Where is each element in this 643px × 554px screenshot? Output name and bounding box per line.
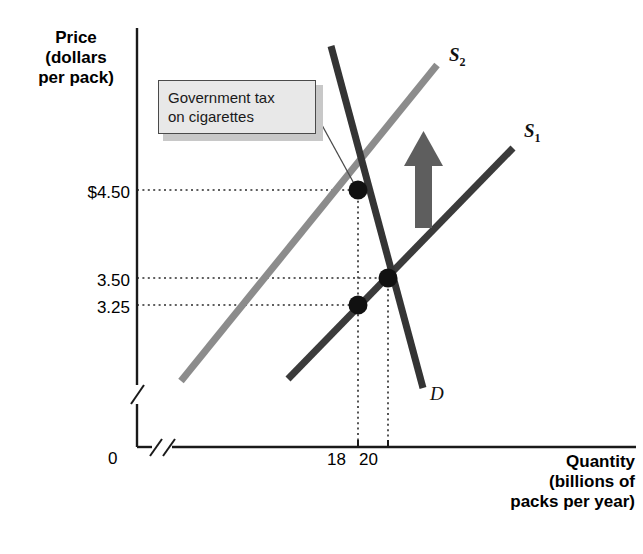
supply-demand-chart: Government tax on cigarettes Price (doll… — [0, 0, 643, 554]
supply-curve-s1 — [288, 148, 513, 379]
quantity-axis-title: Quantity (billions of packs per year) — [413, 452, 635, 512]
point-equilibrium-before-tax — [379, 269, 398, 288]
y-tick-label-350: 3.50 — [52, 272, 130, 290]
x-tick-label-20: 20 — [359, 451, 378, 469]
point-supply-price-net-of-tax — [349, 296, 368, 315]
origin-label: 0 — [108, 450, 117, 468]
point-equilibrium-after-tax — [349, 181, 368, 200]
curve-label-s2-letter: S — [449, 44, 460, 65]
x-tick-label-18: 18 — [327, 451, 346, 469]
supply-shift-arrow-icon — [404, 131, 443, 228]
curve-label-s2: S2 — [449, 44, 466, 70]
government-tax-callout: Government tax on cigarettes — [158, 80, 316, 134]
callout-text: Government tax on cigarettes — [168, 88, 275, 126]
y-tick-label-450: $4.50 — [52, 184, 130, 202]
price-axis-title: Price (dollars per pack) — [22, 28, 130, 88]
x-axis-break-mark — [150, 439, 175, 456]
curve-label-s2-subscript: 2 — [460, 55, 466, 69]
curve-label-s1: S1 — [524, 120, 541, 146]
curve-label-d: D — [430, 383, 444, 405]
y-tick-label-325: 3.25 — [52, 299, 130, 317]
curve-label-s1-subscript: 1 — [535, 131, 541, 145]
curve-label-s1-letter: S — [524, 120, 535, 141]
y-axis-break-mark — [131, 385, 144, 404]
